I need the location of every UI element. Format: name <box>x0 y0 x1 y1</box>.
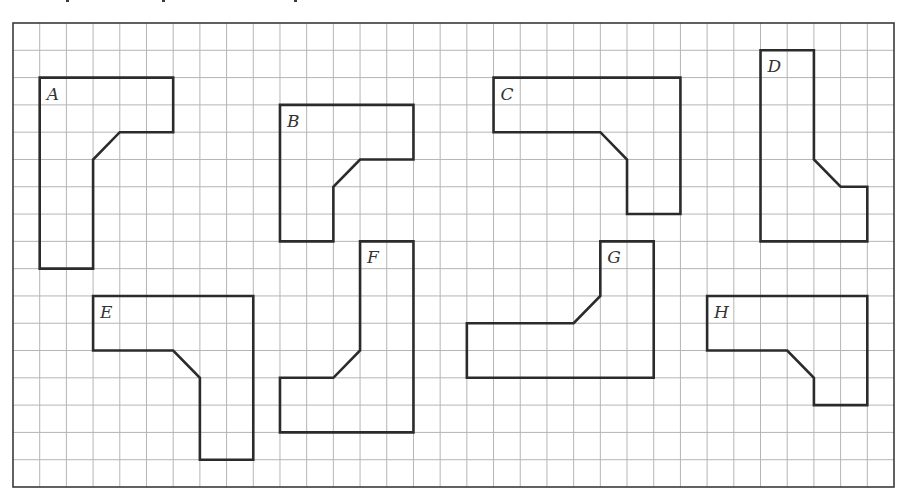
shape-label: D <box>767 56 782 76</box>
shape-g: G <box>467 241 654 377</box>
shape-label: H <box>713 302 730 322</box>
shape-b: B <box>280 105 413 241</box>
shape-label: E <box>99 302 113 322</box>
shape-label: A <box>45 84 59 104</box>
shapes-layer: ABCDEFGH <box>40 50 868 459</box>
cut-off-caption-fragments <box>66 0 297 2</box>
shape-label: G <box>607 247 621 267</box>
shape-c: C <box>494 78 681 214</box>
grid-figure: ABCDEFGH <box>0 0 906 502</box>
shape-outline <box>280 241 413 432</box>
shape-label: B <box>286 111 300 131</box>
grid-lines <box>13 23 894 487</box>
shape-label: C <box>501 84 514 104</box>
shape-outline <box>40 78 173 269</box>
shape-outline <box>494 78 681 214</box>
shape-label: F <box>366 247 380 267</box>
shape-f: F <box>280 241 413 432</box>
shape-outline <box>467 241 654 377</box>
grid-border <box>13 23 894 487</box>
shape-a: A <box>40 78 173 269</box>
shape-outline <box>280 105 413 241</box>
